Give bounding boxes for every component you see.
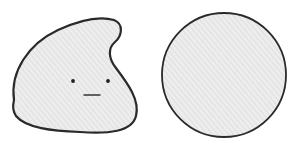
sketch-canvas [0, 0, 299, 147]
circle-shape [162, 13, 286, 137]
circle-figure [162, 13, 286, 137]
left-eye-icon [71, 79, 75, 83]
blob-character [13, 18, 137, 132]
right-eye-icon [106, 79, 110, 83]
blob-body [13, 18, 137, 132]
